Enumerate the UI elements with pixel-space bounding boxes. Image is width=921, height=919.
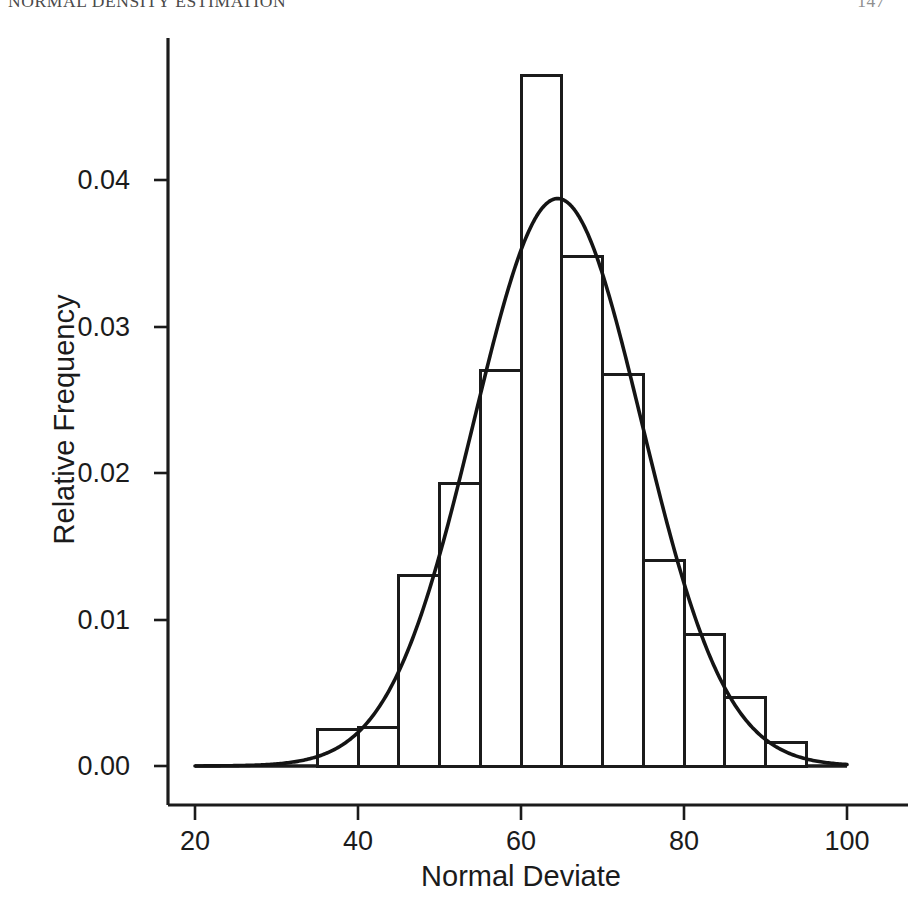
x-tick-label-1: 40 <box>313 828 403 855</box>
y-tick-label-4: 0.04 <box>10 167 130 194</box>
figure-normal-density-histogram: 0.00 0.01 0.02 0.03 0.04 20 40 60 80 100… <box>0 0 921 919</box>
histogram-bar <box>521 76 562 766</box>
x-tick-label-3: 80 <box>639 828 729 855</box>
chart-canvas <box>0 0 921 919</box>
histogram-bar <box>684 634 725 766</box>
x-tick-marks <box>195 805 847 820</box>
histogram-bar <box>562 256 603 766</box>
histogram-bar <box>399 576 440 766</box>
histogram-bar <box>358 728 399 766</box>
x-tick-label-2: 60 <box>476 828 566 855</box>
histogram-bar <box>440 483 481 766</box>
histogram-bar <box>725 697 766 766</box>
histogram-bars <box>317 76 806 766</box>
histogram-bar <box>643 561 684 766</box>
x-tick-label-0: 20 <box>150 828 240 855</box>
histogram-bar <box>480 370 521 766</box>
y-tick-label-0: 0.00 <box>10 753 130 780</box>
histogram-bar <box>603 375 644 766</box>
y-axis-title: Relative Frequency <box>50 210 79 630</box>
x-axis-title: Normal Deviate <box>195 862 847 891</box>
x-tick-label-4: 100 <box>802 828 892 855</box>
y-tick-marks <box>154 180 168 766</box>
